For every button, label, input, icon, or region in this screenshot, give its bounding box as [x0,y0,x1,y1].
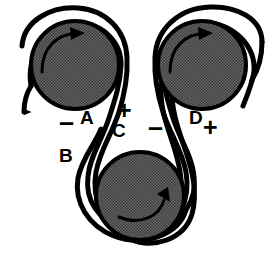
bottom-pulley [96,152,184,240]
label-segment-b: B [59,146,73,165]
label-segment-a: A [80,108,94,127]
pulley-belt-diagram [0,0,270,254]
label-segment-c: C [112,121,126,140]
label-minus-sign-a: – [59,109,73,136]
diagram-canvas: – A + C – D + B [0,0,270,254]
left-belt-free-end [24,86,31,112]
label-minus-sign-d: – [148,114,162,141]
label-segment-d: D [189,108,203,127]
label-plus-sign-d: + [203,115,218,140]
